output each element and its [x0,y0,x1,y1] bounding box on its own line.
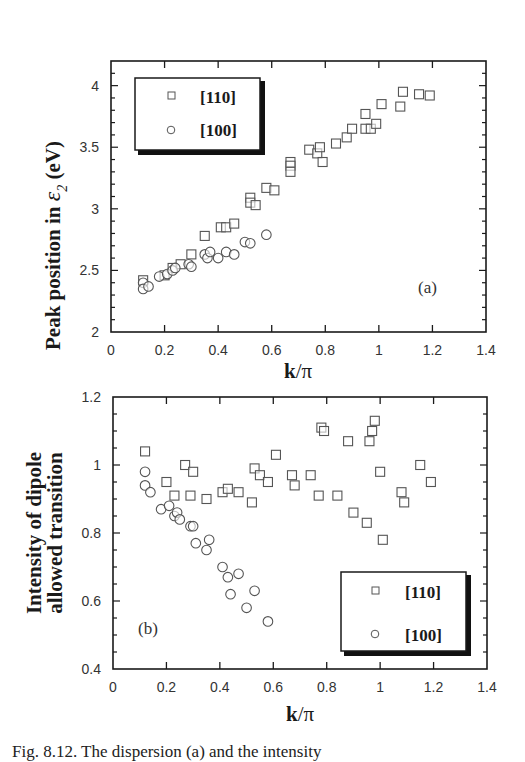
data-point-square [361,109,370,118]
x-tick-label: 0.6 [264,679,284,695]
data-point-square [377,100,386,109]
chart-panel-b: 00.20.40.60.811.21.40.40.60.811.2 [110] … [22,389,497,726]
data-point-square [400,498,409,507]
y-tick-label: 0.6 [82,593,102,609]
x-tick-label: 0 [109,679,117,695]
data-point-square [333,491,342,500]
data-point-square [251,201,260,210]
data-point-square [286,167,295,176]
data-point-square [378,535,387,544]
data-point-square [187,250,196,259]
panel-label-a: (a) [418,278,437,297]
data-point-square [287,471,296,480]
data-point-circle [146,487,156,497]
x-tick-label: 1.2 [423,342,443,358]
y-tick-label: 0.4 [82,661,102,677]
y-tick-label: 0.8 [82,525,102,541]
data-point-square [306,471,315,480]
data-point-square [398,87,407,96]
data-point-circle [205,247,215,257]
data-point-square [170,491,179,500]
y-axis-title-b-line2: allowed transition [43,452,67,614]
x-tick-label: 0.2 [155,342,175,358]
data-point-circle [218,562,228,572]
data-point-circle [191,538,201,548]
legend-label-100: [100] [405,626,442,645]
data-point-circle [140,467,150,477]
data-point-circle [242,603,252,613]
data-point-circle [234,569,244,579]
data-point-square [372,119,381,128]
data-point-circle [188,521,198,531]
y-axis-title-a: Peak position in ε2 (eV) [39,141,70,350]
y-tick-label: 4 [91,78,99,94]
x-tick-label: 1.2 [424,679,444,695]
data-point-circle [245,239,255,249]
data-point-square [415,90,424,99]
data-point-square [230,219,239,228]
legend-a: [110] [100] [135,78,265,155]
data-point-circle [170,263,180,273]
data-point-square [425,91,434,100]
data-point-square [376,467,385,476]
svg-text:Peak position in ε2 (eV): Peak position in ε2 (eV) [39,141,70,350]
data-point-square [314,491,323,500]
data-point-square [202,495,211,504]
data-point-circle [175,515,185,525]
legend-label-110: [110] [405,583,441,602]
data-point-square [348,124,357,133]
x-tick-label: 0.4 [208,342,228,358]
data-point-square [290,481,299,490]
chart-panel-a: 00.20.40.60.811.21.422.533.54 [110] [100… [39,61,496,383]
data-point-square [332,139,341,148]
data-point-square [365,437,374,446]
x-tick-label: 0.2 [157,679,177,695]
data-point-square [247,498,256,507]
data-point-circle [250,586,260,596]
data-point-circle [223,572,233,582]
x-tick-label: 0.8 [316,342,336,358]
x-tick-label: 0 [107,342,115,358]
figure-caption: Fig. 8.12. The dispersion (a) and the in… [12,742,321,762]
legend-label-100: [100] [200,121,237,140]
data-point-square [141,447,150,456]
data-point-square [189,467,198,476]
x-tick-label: 1 [375,342,383,358]
panel-label-b: (b) [138,619,158,638]
data-point-square [186,491,195,500]
data-point-circle [229,250,239,260]
legend-label-110: [110] [200,88,236,107]
data-point-square [416,461,425,470]
y-tick-label: 3.5 [80,139,100,155]
data-point-circle [226,589,236,599]
data-point-circle [187,262,197,272]
data-point-circle [204,535,214,545]
data-point-square [223,484,232,493]
x-tick-label: 1.4 [477,679,497,695]
x-axis-title-a: k/π [284,359,313,383]
data-point-circle [144,282,154,292]
data-point-circle [263,617,273,627]
data-point-square [271,450,280,459]
y-tick-label: 2 [91,324,99,340]
y-tick-label: 3 [91,201,99,217]
data-point-square [396,102,405,111]
data-point-square [349,508,358,517]
data-point-square [344,437,353,446]
x-tick-label: 0.8 [317,679,337,695]
data-point-square [315,143,324,152]
x-axis-title-b: k/π [286,702,315,726]
y-tick-label: 1 [93,457,101,473]
data-point-square [200,231,209,240]
x-tick-label: 0.4 [210,679,230,695]
x-tick-label: 1.4 [476,342,496,358]
data-point-square [318,158,327,167]
data-point-circle [213,253,223,263]
data-point-circle [164,501,174,511]
y-tick-label: 1.2 [82,389,102,405]
data-point-circle [202,545,212,555]
data-point-square [397,488,406,497]
x-tick-label: 1 [376,679,384,695]
data-point-square [263,478,272,487]
